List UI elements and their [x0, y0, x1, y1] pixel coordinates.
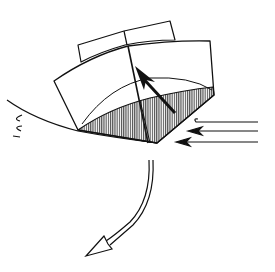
splash-marks — [13, 115, 22, 137]
water-flow-arrows — [176, 119, 258, 146]
diagram-canvas: Line illustration of a boat-like block h… — [0, 0, 275, 272]
capsize-rotation-arrow — [86, 160, 153, 256]
